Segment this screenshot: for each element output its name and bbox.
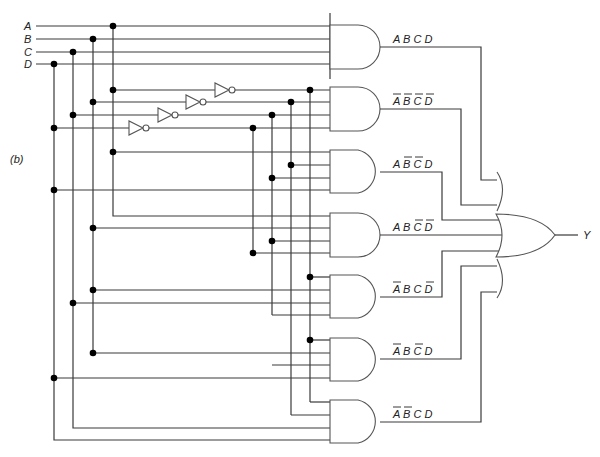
product-term-labels: A B C D A B C D A B C D A B C D A B C D … xyxy=(392,33,434,420)
junction-dots xyxy=(51,23,314,382)
and-gate-6-icon xyxy=(330,338,375,381)
and-gate-2-icon xyxy=(330,87,380,131)
or-gate-icon xyxy=(496,172,578,298)
and-gates xyxy=(330,13,380,443)
logic-circuit-diagram: (b) A B C D xyxy=(0,0,600,457)
input-label-c: C xyxy=(24,46,32,58)
term-label-7: A B C D xyxy=(392,408,432,420)
input-lines xyxy=(36,26,330,64)
term-label-1: A B C D xyxy=(392,33,432,45)
inverter-d-icon xyxy=(129,121,149,135)
term-label-6: A B C D xyxy=(392,345,432,357)
input-label-d: D xyxy=(24,58,32,70)
term-label-2: A B C D xyxy=(392,95,432,107)
and-gate-5-icon xyxy=(330,275,375,318)
term-label-5: A B C D xyxy=(392,283,432,295)
and-gate-1-icon xyxy=(330,13,380,79)
and-gate-3-icon xyxy=(330,150,375,193)
inverters xyxy=(54,83,330,135)
output-label-y: Y xyxy=(583,229,591,241)
gate3-wiring xyxy=(54,152,330,190)
gate6-wiring xyxy=(54,340,330,378)
gate4-wiring xyxy=(93,228,330,253)
input-label-b: B xyxy=(24,33,31,45)
inverter-c-icon xyxy=(158,108,178,122)
panel-label: (b) xyxy=(10,153,24,165)
gate7-wiring xyxy=(291,402,330,415)
inverter-b-icon xyxy=(186,95,206,109)
input-label-a: A xyxy=(23,20,31,32)
and-gate-4-icon xyxy=(330,213,380,257)
input-labels: A B C D xyxy=(23,20,32,70)
term-label-3: A B C D xyxy=(392,158,432,170)
and-gate-7-icon xyxy=(330,400,375,443)
inverter-a-icon xyxy=(215,83,235,97)
term-label-4: A B C D xyxy=(392,221,432,233)
